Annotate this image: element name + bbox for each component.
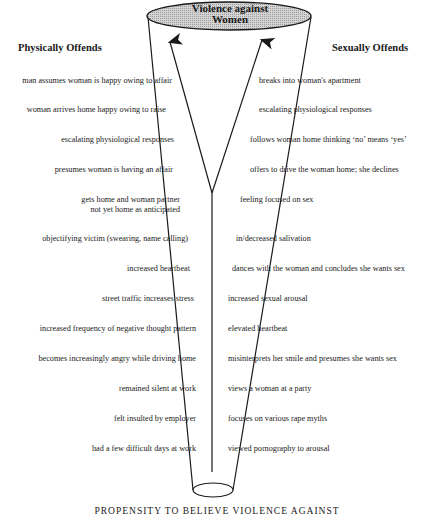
left-item: not yet home as anticipated: [90, 205, 180, 215]
left-item: becomes increasingly angry while driving…: [38, 354, 196, 364]
left-item: street traffic increases stress: [102, 294, 194, 304]
heading-physically-offends: Physically Offends: [18, 42, 102, 53]
right-item: misinterprets her smile and presumes she…: [228, 354, 397, 364]
left-item: had a few difficult days at work: [92, 444, 196, 454]
left-branch-arrow: [170, 42, 212, 193]
right-item: in/decreased salivation: [236, 234, 311, 244]
left-item: remained silent at work: [119, 384, 196, 394]
right-item: feeling focused on sex: [240, 195, 313, 205]
left-item: felt insulted by employer: [114, 414, 196, 424]
left-item: man assumes woman is happy owing to affa…: [22, 76, 172, 86]
left-item: presumes woman is having an affair: [55, 165, 173, 175]
right-item: follows woman home thinking ‘no’ means ‘…: [250, 135, 407, 145]
left-item: woman arrives home happy owing to raise: [27, 105, 166, 115]
right-item: breaks into woman's apartment: [259, 76, 361, 86]
heading-sexually-offends: Sexually Offends: [332, 42, 408, 53]
left-item: objectifying victim (swearing, name call…: [42, 234, 188, 244]
footer-caption: PROPENSITY TO BELIEVE VIOLENCE AGAINST: [0, 506, 434, 516]
left-item: increased heartbeat: [127, 264, 190, 274]
right-item: views a woman at a party: [228, 384, 311, 394]
right-item: dances with the woman and concludes she …: [232, 264, 405, 274]
left-item: gets home and woman partner: [81, 195, 180, 205]
base-ellipse: [193, 483, 233, 497]
right-item: viewed pornography to arousal: [228, 444, 330, 454]
right-item: offers to drive the woman home; she decl…: [250, 165, 399, 175]
right-item: elevated heartbeat: [228, 324, 287, 334]
right-item: increased sexual arousal: [228, 294, 308, 304]
apex-label: Violence against Women: [155, 3, 305, 25]
right-item: focuses on various rape myths: [228, 414, 327, 424]
left-item: increased frequency of negative thought …: [40, 324, 196, 334]
right-item: escalating physiological responses: [259, 105, 372, 115]
left-item: escalating physiological responses: [61, 135, 174, 145]
